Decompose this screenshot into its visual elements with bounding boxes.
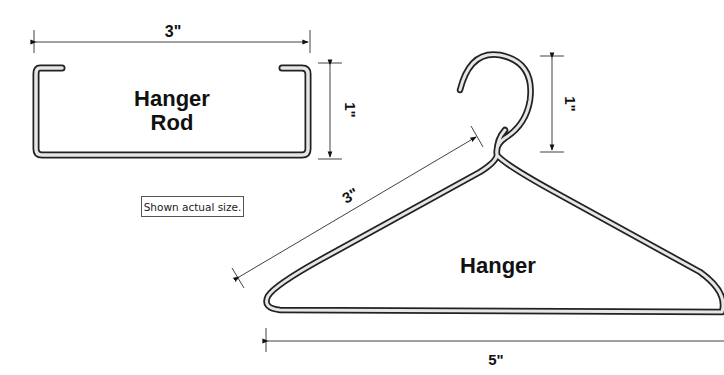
rod-height-label: 1"	[342, 102, 359, 117]
hanger-title: Hanger	[460, 253, 536, 278]
hanger-height-label: 1"	[562, 96, 579, 111]
hanger-diagonal-dimension	[232, 126, 483, 288]
hanger-diagonal-label: 3"	[339, 184, 361, 207]
rod-height-dimension	[318, 63, 342, 159]
actual-size-note: Shown actual size.	[141, 196, 244, 217]
hanger-height-dimension	[540, 56, 564, 152]
rod-width-label: 3"	[165, 23, 181, 40]
diagram-svg: 3" 1" Hanger Rod 1" 3" 5" Hanger	[0, 0, 724, 375]
hanger-width-dimension	[266, 328, 724, 352]
rod-title-line2: Rod	[151, 110, 194, 135]
rod-title-line1: Hanger	[134, 86, 210, 111]
hanger-width-label: 5"	[488, 351, 503, 368]
diagram-canvas: 3" 1" Hanger Rod 1" 3" 5" Hanger Shown a…	[0, 0, 724, 375]
